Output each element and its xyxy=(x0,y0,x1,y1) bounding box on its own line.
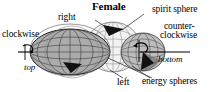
label-clockwise: clockwise xyxy=(2,30,39,40)
label-left: left xyxy=(117,78,129,88)
label-right: right xyxy=(58,13,75,23)
label-spirit-sphere: spirit sphere xyxy=(152,5,197,15)
label-bottom: bottom xyxy=(158,55,182,64)
label-energy-spheres: energy spheres xyxy=(142,77,197,87)
label-top: top xyxy=(24,63,35,72)
label-counterclockwise: clockwise xyxy=(160,31,197,41)
page-title: Female xyxy=(92,1,126,12)
female-energy-field-diagram: Female clockwise right top spirit sphere… xyxy=(0,0,224,92)
